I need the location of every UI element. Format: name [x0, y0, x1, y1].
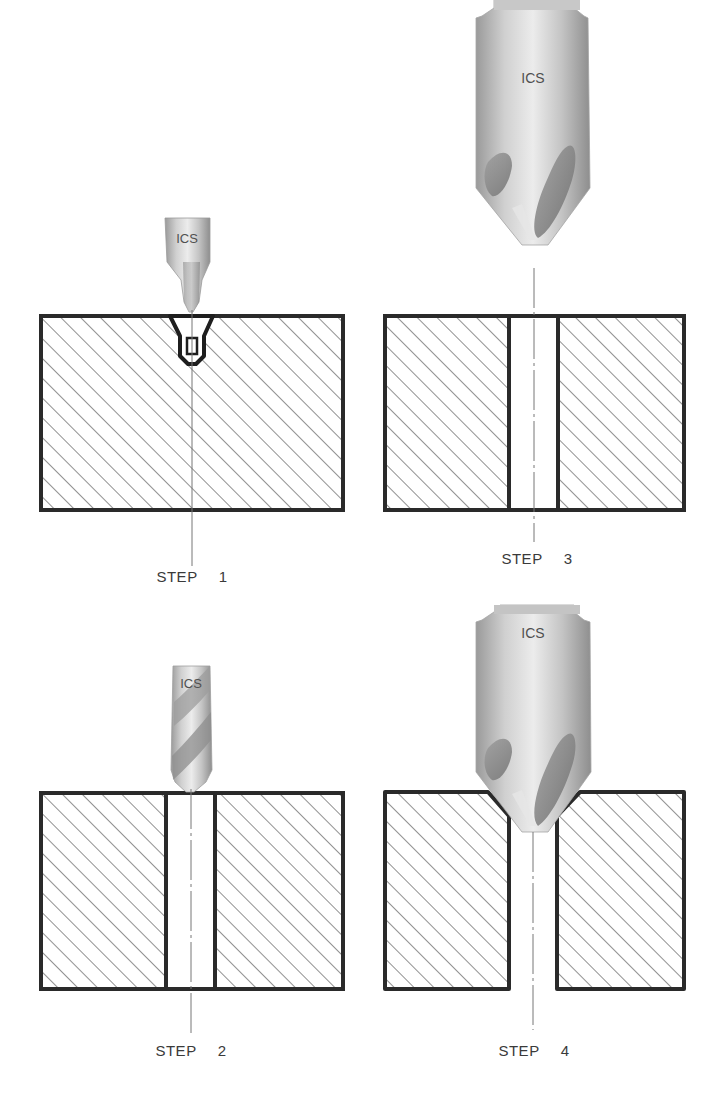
center-drill-tool: ICS	[165, 218, 210, 312]
step-3-workpiece-left	[385, 316, 509, 510]
step-3-label: STEP 3	[501, 550, 572, 567]
step-2-workpiece-right	[215, 793, 343, 989]
step-2-group: ICS	[41, 666, 343, 1033]
step-3-group: ICS	[385, 0, 684, 542]
step-1-tool-brand: ICS	[176, 231, 198, 246]
step-1-group: ICS	[41, 218, 343, 566]
step-1-label: STEP 1	[156, 568, 227, 585]
step-2-workpiece-left	[41, 793, 166, 989]
step-3-tool-brand: ICS	[521, 70, 544, 86]
step-4-label: STEP 4	[498, 1042, 569, 1059]
step-4-tool-brand: ICS	[521, 625, 544, 641]
drilling-process-diagram: ICS ICS ICS	[0, 0, 726, 1106]
step-4-workpiece-left	[385, 792, 509, 989]
step-4-workpiece-right	[557, 792, 684, 989]
countersink-tool-step-3: ICS	[476, 0, 590, 245]
step-3-workpiece-right	[558, 316, 684, 510]
twist-drill-tool: ICS	[171, 666, 212, 792]
step-2-label: STEP 2	[155, 1042, 226, 1059]
step-4-group: ICS	[385, 605, 684, 1030]
step-2-tool-brand: ICS	[180, 676, 202, 691]
